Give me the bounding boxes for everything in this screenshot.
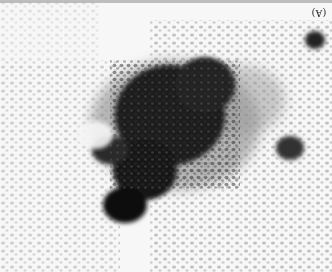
micrograph-figure: (A) <box>0 0 332 272</box>
cytology-smear-image <box>0 0 332 272</box>
panel-label: (A) <box>312 8 326 19</box>
